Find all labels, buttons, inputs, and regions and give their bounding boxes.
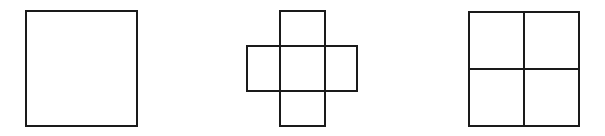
shapes-diagram — [0, 0, 605, 136]
cross-rect — [247, 46, 357, 91]
square-shape — [26, 11, 137, 126]
square-rect — [26, 11, 137, 126]
cross-rect — [280, 11, 325, 126]
cross-shape — [247, 11, 357, 126]
quartered-square-shape — [469, 12, 579, 126]
